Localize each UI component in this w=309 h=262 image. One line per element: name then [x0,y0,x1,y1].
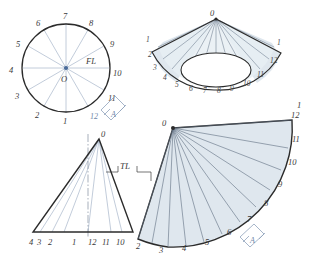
development-outline [138,120,292,247]
development-label-1: 1 [297,100,301,110]
front-view-element-lines [40,139,122,232]
front-view-label-3: 3 [36,237,41,247]
development-label-11: 11 [292,134,300,144]
pictorial-label-4: 4 [163,73,167,82]
pictorial-apex-label: 0 [210,8,215,18]
development-sector: 0 1 12 11 10 9 8 7 6 5 4 3 2 A [136,100,301,255]
pictorial-label-3: 3 [152,63,157,72]
pictorial-label-2: 2 [148,50,152,59]
pictorial-label-10: 10 [243,79,251,88]
top-view-center-point [64,66,68,70]
top-view-label-10: 10 [113,68,122,78]
front-view-label-1: 1 [72,237,76,247]
front-view-apex-label: 0 [101,129,106,139]
development-apex-label: 0 [162,118,167,128]
pictorial-base-ellipse [181,53,251,87]
front-view-triangle: 0 4 3 2 1 12 11 10 TL [29,129,151,247]
true-length-label: TL [120,161,130,171]
front-view-label-10: 10 [116,237,125,247]
front-view-label-2: 2 [48,237,53,247]
front-view-outline [33,139,133,232]
top-view-label-6: 6 [36,18,41,28]
top-view-label-7: 7 [63,11,68,21]
top-view-label-8: 8 [89,18,94,28]
development-label-10: 10 [288,157,297,167]
development-apex-point [171,126,175,130]
front-view-label-12: 12 [88,237,97,247]
pictorial-label-11: 11 [257,70,264,79]
pictorial-label-1b: 1 [277,38,281,47]
pictorial-label-1: 1 [146,35,150,44]
development-label-12: 12 [291,110,300,120]
development-label-9: 9 [278,179,283,189]
top-view-label-3: 3 [14,91,19,101]
top-view-fl-label: FL [85,56,96,66]
top-view-arrow-label: A [110,110,116,119]
top-view-label-9: 9 [110,39,115,49]
top-view-label-4: 4 [9,65,14,75]
pictorial-apex-point [214,17,217,20]
development-label-5: 5 [205,237,209,247]
top-view-circle: O FL 1 2 3 4 5 6 7 8 9 10 11 12 [9,11,126,126]
development-label-3: 3 [158,245,163,255]
top-view-label-2: 2 [35,110,40,120]
development-arrow-label: A [249,236,255,245]
pictorial-label-8: 8 [217,86,221,95]
pictorial-cone-fan: 0 1 2 3 4 5 6 7 8 9 10 11 12 1 [146,8,281,95]
pictorial-label-12: 12 [270,56,278,65]
top-view-label-12: 12 [90,112,98,121]
pictorial-label-5: 5 [175,80,179,89]
front-view-label-11: 11 [102,237,110,247]
top-view-label-5: 5 [16,39,20,49]
front-view-label-4: 4 [29,237,34,247]
pictorial-label-6: 6 [189,84,193,93]
pictorial-label-9: 9 [230,84,234,93]
pictorial-label-7: 7 [203,86,207,95]
top-view-center-label: O [61,74,67,84]
top-view-label-1: 1 [63,116,67,126]
engineering-drawing-sheet: O FL 1 2 3 4 5 6 7 8 9 10 11 12 [0,0,309,262]
development-label-2: 2 [136,241,141,251]
